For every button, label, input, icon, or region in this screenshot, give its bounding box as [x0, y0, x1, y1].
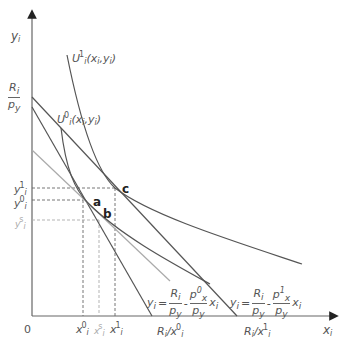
y-axis-label: yi — [11, 30, 20, 44]
indifference-curve-u1 — [67, 55, 302, 264]
point-c: c — [122, 182, 129, 196]
x-axis-label: xi — [323, 324, 332, 338]
point-a: a — [93, 195, 101, 209]
budget-equation-1: yi = Ripy - p1xpy xi — [230, 287, 301, 319]
budget-line-1-outer — [32, 97, 237, 316]
x-tick-xs: xsi — [94, 323, 105, 338]
u1-label: U1i(xi,yi) — [72, 51, 116, 66]
x-intercept-0: Ri/x0i — [157, 324, 183, 339]
y-tick-ys: ysi — [15, 216, 26, 231]
budget-equation-0: yi = Ripy - p0xpy xi — [147, 287, 218, 319]
u0-label: U0i(xi,yi) — [57, 112, 101, 127]
x-tick-x0: x0i — [76, 322, 89, 337]
x-intercept-1: Ri/x1i — [244, 324, 270, 339]
diagram-canvas: yi xi 0 Ri py U1i(xi,yi) U0i(xi,yi) y1i … — [0, 0, 348, 352]
origin-label: 0 — [24, 324, 31, 335]
point-b: b — [103, 207, 112, 221]
y-tick-y0: y0i — [14, 196, 27, 211]
y-intercept-label: Ri py — [8, 82, 20, 113]
budget-line-0 — [32, 107, 152, 316]
x-tick-x1: x1i — [110, 322, 123, 337]
